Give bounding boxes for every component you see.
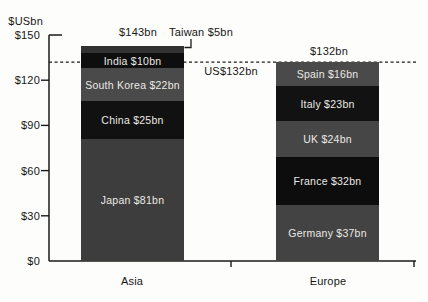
segment-label: India $10bn — [104, 55, 162, 67]
y-tick-label-30: $30 — [0, 210, 40, 222]
reference-line-label: US$132bn — [195, 65, 267, 77]
y-tick-label-90: $90 — [0, 119, 40, 131]
bar-asia: Japan $81bnChina $25bnSouth Korea $22bnI… — [81, 46, 184, 261]
segment-label: Japan $81bn — [101, 194, 164, 206]
segment-uk: UK $24bn — [276, 121, 379, 157]
segment-italy: Italy $23bn — [276, 86, 379, 121]
y-tick-label-150: $150 — [0, 29, 40, 41]
segment-label: France $32bn — [294, 175, 362, 187]
segment-label: Italy $23bn — [300, 98, 354, 110]
y-axis-unit-label: $USbn — [0, 15, 43, 27]
europe-total-label: $132bn — [291, 45, 367, 57]
segment-label: China $25bn — [101, 114, 163, 126]
segment-label: UK $24bn — [303, 133, 352, 145]
category-label-asia: Asia — [92, 275, 172, 287]
y-tick-label-60: $60 — [0, 165, 40, 177]
segment-france: France $32bn — [276, 157, 379, 205]
y-tick-label-120: $120 — [0, 74, 40, 86]
y-tick-label-0: $0 — [0, 255, 40, 267]
asia-total-label: $143bn — [102, 26, 174, 38]
segment-taiwan — [81, 46, 184, 54]
segment-south-korea: South Korea $22bn — [81, 68, 184, 101]
segment-label: Spain $16bn — [297, 68, 359, 80]
taiwan-callout-label: Taiwan $5bn — [169, 26, 233, 38]
segment-japan: Japan $81bn — [81, 139, 184, 261]
segment-china: China $25bn — [81, 101, 184, 139]
stacked-bar-chart: $USbn $143bn Taiwan $5bn $132bn US$132bn… — [0, 0, 428, 302]
segment-label: Germany $37bn — [288, 227, 367, 239]
segment-spain: Spain $16bn — [276, 62, 379, 86]
segment-germany: Germany $37bn — [276, 205, 379, 261]
segment-label: South Korea $22bn — [85, 79, 180, 91]
category-label-europe: Europe — [288, 275, 368, 287]
bar-europe: Germany $37bnFrance $32bnUK $24bnItaly $… — [276, 62, 379, 261]
segment-india: India $10bn — [81, 53, 184, 68]
